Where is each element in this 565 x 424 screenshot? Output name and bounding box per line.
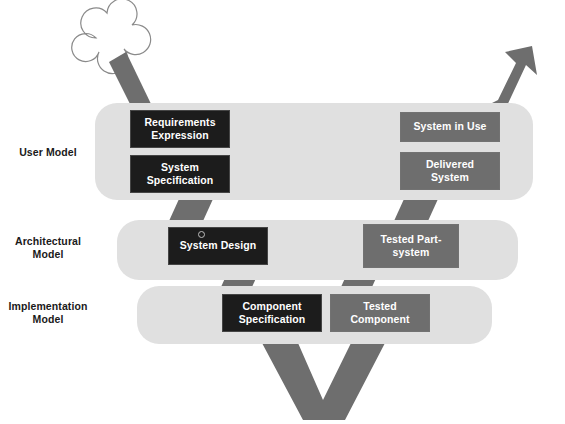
box-system-specification[interactable]: System Specification — [130, 155, 230, 193]
box-system-design[interactable]: System Design — [168, 227, 268, 265]
row-label-architectural-model: Architectural Model — [4, 235, 92, 261]
arrow-down-icon — [262, 343, 385, 420]
box-tested-part-system[interactable]: Tested Part- system — [363, 224, 459, 268]
box-component-specification[interactable]: Component Specification — [222, 294, 322, 332]
circle-dot-icon — [198, 231, 205, 238]
box-requirements-expression[interactable]: Requirements Expression — [130, 110, 230, 148]
connector-arrow-icon — [169, 199, 213, 221]
row-label-implementation-model: Implementation Model — [2, 300, 94, 326]
diagram-graphics-layer — [0, 0, 565, 424]
box-tested-component[interactable]: Tested Component — [330, 294, 430, 332]
box-delivered-system[interactable]: Delivered System — [400, 152, 500, 190]
arrow-down-right-icon — [109, 52, 152, 110]
arrow-up-right-icon — [478, 46, 537, 110]
vmodel-diagram: User Model Architectural Model Implement… — [0, 0, 565, 424]
row-label-user-model: User Model — [4, 146, 92, 159]
box-system-in-use[interactable]: System in Use — [400, 112, 500, 142]
connector-arrow-icon — [394, 199, 438, 221]
